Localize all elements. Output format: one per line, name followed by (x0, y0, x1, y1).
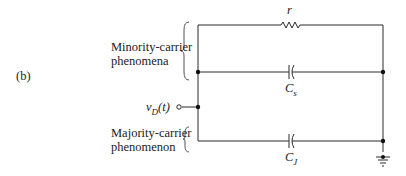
input-terminal-icon (177, 105, 181, 109)
minority-label-line2: phenomena (111, 54, 169, 68)
junction-dot (196, 70, 200, 74)
circuit-diagram: (b) Minority-carrier phenomena Majority-… (0, 0, 406, 176)
resistor-icon (281, 22, 300, 28)
resistor-label: r (287, 3, 292, 17)
panel-label: (b) (16, 69, 31, 83)
circuit-schematic (0, 0, 406, 176)
junction-dot (381, 139, 385, 143)
input-voltage-label: vD(t) (146, 100, 170, 119)
cj-label: CJ (285, 150, 297, 169)
junction-dot (381, 155, 385, 159)
majority-label-line1: Majority-carrier (111, 126, 192, 140)
junction-dot (196, 105, 200, 109)
minority-label-line1: Minority-carrier (111, 40, 192, 54)
cs-label: Cs (285, 81, 297, 100)
junction-dot (381, 70, 385, 74)
majority-label-line2: phenomenon (111, 140, 176, 154)
cs-branch (198, 65, 383, 79)
cj-branch (198, 134, 383, 148)
resistor-branch (198, 22, 383, 28)
